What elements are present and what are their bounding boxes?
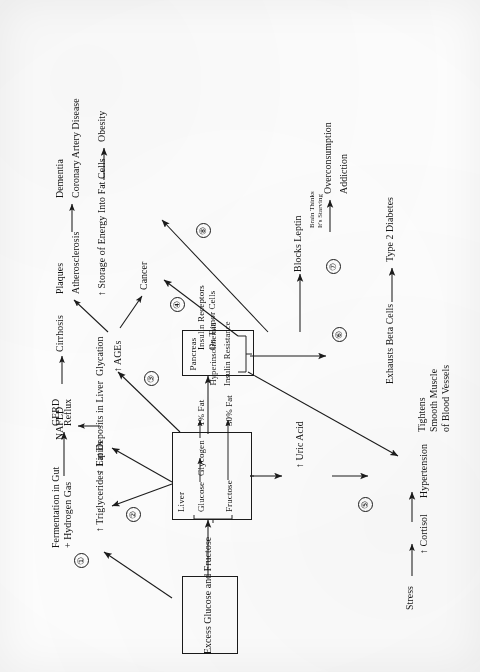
pancreas-label: Pancreas [188, 332, 199, 376]
node-blocks-leptin: Blocks Leptin [292, 215, 304, 272]
liver-internal-arrows [172, 410, 254, 520]
source-box-label: Excess Glucose and Fructose [202, 578, 214, 654]
marker-4: ④ [170, 297, 185, 312]
node-fermentation: Fermentation in Gut + Hydrogen Gas [50, 467, 74, 548]
node-type2-diabetes: Type 2 Diabetes [384, 197, 396, 262]
node-overconsumption: Overconsumption [322, 122, 334, 194]
marker-8: ⑧ [196, 223, 211, 238]
marker-2: ② [126, 507, 141, 522]
marker-6: ⑥ [332, 327, 347, 342]
node-stress: Stress [404, 586, 416, 610]
node-uric-acid: ↑ Uric Acid [294, 421, 306, 468]
tightens-line-2: Smooth Muscle [428, 365, 440, 432]
tightens-line-1: Tightens [416, 365, 428, 432]
marker-1: ① [74, 553, 89, 568]
tightens-line-3: of Blood Vessels [440, 365, 452, 432]
node-ages: ↑ AGEs [112, 341, 124, 372]
node-glycation: Glycation [94, 336, 106, 376]
diagram-canvas: Excess Glucose and Fructose ① Fermentati… [0, 0, 480, 672]
node-nafld: NAFLD [54, 407, 66, 440]
node-cancer: Cancer [138, 262, 150, 290]
node-tightens: Tightens Smooth Muscle of Blood Vessels [416, 365, 452, 432]
node-coronary: Coronary Artery Disease [70, 98, 82, 198]
node-dementia: Dementia [54, 159, 66, 198]
marker-3: ③ [144, 371, 159, 386]
node-fat-deposits: Fat Deposits in Liver [94, 381, 106, 466]
diagram-frame: Excess Glucose and Fructose ① Fermentati… [0, 0, 480, 672]
node-cortisol: ↑ Cortisol [418, 514, 430, 554]
node-atherosclerosis: Atherosclerosis [70, 232, 82, 294]
hyperinsolinemia-label: Hyperinsolinemia [208, 322, 218, 386]
node-plaques: Plaques [54, 263, 66, 294]
insulin-resistance-label: Insulin Resistance [222, 322, 232, 386]
marker-7: ⑦ [326, 259, 341, 274]
node-exhausts-beta-cells: Exhausts Beta Cells [384, 304, 396, 384]
node-cirrhosis: Cirrhosis [54, 315, 66, 352]
brain-line-2: It's Starving [316, 191, 324, 228]
node-addiction: Addiction [338, 154, 350, 194]
node-triglycerides: ↑ Triglycerides [94, 471, 106, 532]
marker-5: ⑤ [358, 497, 373, 512]
brain-line-1: Brain Thinks [308, 191, 316, 228]
fermentation-line-1: Fermentation in Gut [50, 467, 62, 548]
node-hypertension: Hypertension [418, 444, 430, 498]
fermentation-line-2: + Hydrogen Gas [62, 467, 74, 548]
node-storage-energy: ↑ Storage of Energy Into Fat Cells [96, 158, 108, 296]
node-brain-thinks: Brain Thinks It's Starving [308, 191, 325, 228]
node-obesity: Obesity [96, 111, 108, 142]
